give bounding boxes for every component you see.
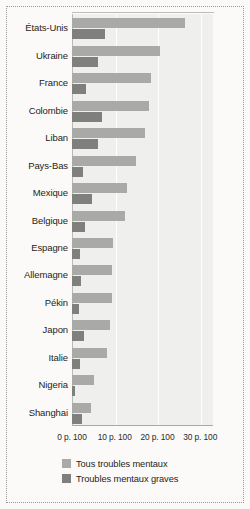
bar-severe <box>72 194 92 204</box>
category-label: Mexique <box>2 187 68 198</box>
bar-all <box>72 101 149 111</box>
bar-all <box>72 348 107 358</box>
bar-severe <box>72 222 85 232</box>
legend-swatch-all-disorders <box>62 459 71 468</box>
x-tick-30: 30 p. 100 <box>183 432 217 442</box>
category-label: Colombie <box>2 105 68 116</box>
category-label: Allemagne <box>2 269 68 280</box>
bar-all <box>72 128 145 138</box>
bar-all <box>72 238 113 248</box>
legend-swatch-severe-disorders <box>62 474 71 483</box>
bar-severe <box>72 57 98 67</box>
category-label: Liban <box>2 132 68 143</box>
category-label: Pékin <box>2 297 68 308</box>
bar-all <box>72 18 185 28</box>
bar-severe <box>72 249 80 259</box>
legend-item-severe-disorders: Troubles mentaux graves <box>0 471 250 486</box>
bar-all <box>72 320 110 330</box>
bar-all <box>72 46 160 56</box>
plot-top-rule <box>72 12 214 13</box>
bar-severe <box>72 29 105 39</box>
bar-all <box>72 183 127 193</box>
category-label: Japon <box>2 324 68 335</box>
plot-wrapper: États-UnisUkraineFranceColombieLibanPays… <box>0 14 250 429</box>
bar-all <box>72 265 112 275</box>
bar-severe <box>72 359 80 369</box>
category-label: Espagne <box>2 242 68 253</box>
bar-all <box>72 73 151 83</box>
bar-severe <box>72 304 79 314</box>
bar-severe <box>72 139 98 149</box>
category-label: France <box>2 77 68 88</box>
bar-severe <box>72 386 75 396</box>
bar-severe <box>72 84 86 94</box>
x-tick-10: 10 p. 100 <box>98 432 132 442</box>
category-label: Nigeria <box>2 379 68 390</box>
bar-severe <box>72 414 82 424</box>
bar-all <box>72 375 94 385</box>
chart-legend: Tous troubles mentaux Troubles mentaux g… <box>0 456 250 486</box>
legend-item-all-disorders: Tous troubles mentaux <box>0 456 250 471</box>
bar-all <box>72 293 112 303</box>
bar-severe <box>72 112 102 122</box>
chart-figure: États-UnisUkraineFranceColombieLibanPays… <box>0 0 250 509</box>
category-label: Shanghai <box>2 407 68 418</box>
bar-severe <box>72 167 83 177</box>
bar-all <box>72 211 125 221</box>
legend-label-all-disorders: Tous troubles mentaux <box>76 459 167 469</box>
bar-all <box>72 156 136 166</box>
bar-severe <box>72 331 84 341</box>
category-label: États-Unis <box>2 22 68 33</box>
bar-all <box>72 403 91 413</box>
category-label: Ukraine <box>2 50 68 61</box>
x-tick-0: 0 p. 100 <box>57 432 86 442</box>
legend-label-severe-disorders: Troubles mentaux graves <box>76 474 178 484</box>
category-label: Italie <box>2 352 68 363</box>
bar-severe <box>72 276 81 286</box>
x-tick-20: 20 p. 100 <box>140 432 174 442</box>
category-label: Belgique <box>2 215 68 226</box>
category-label: Pays-Bas <box>2 160 68 171</box>
x-axis-tick-labels: 0 p. 10010 p. 10020 p. 10030 p. 100 <box>0 432 250 446</box>
